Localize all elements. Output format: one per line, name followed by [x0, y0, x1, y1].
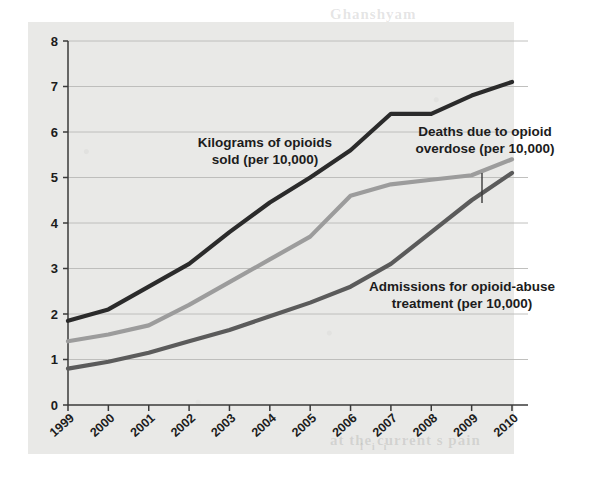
x-tick-label: 2003 [208, 411, 238, 440]
annotation-opioids-sold: sold (per 10,000) [212, 152, 319, 167]
y-tick-label: 1 [51, 352, 58, 367]
x-axis-ticks: 1999200020012002200320042005200620072008… [47, 405, 521, 440]
y-tick-label: 7 [51, 79, 58, 94]
series-line [68, 173, 512, 369]
x-tick-label: 2000 [87, 411, 117, 440]
x-tick-label: 2010 [491, 411, 521, 440]
x-tick-label: 2002 [168, 411, 198, 440]
annotation-overdose-deaths: Deaths due to opioid [418, 124, 552, 139]
x-tick-label: 2006 [330, 411, 360, 440]
x-tick-label: 2004 [249, 411, 279, 440]
x-tick-label: 2005 [289, 411, 319, 440]
y-tick-label: 2 [51, 307, 58, 322]
y-tick-label: 4 [51, 216, 59, 231]
y-tick-label: 6 [51, 125, 58, 140]
x-tick-label: 2001 [128, 411, 158, 440]
y-axis-ticks: 012345678 [51, 34, 68, 413]
x-tick-label: 2008 [410, 411, 440, 440]
x-tick-label: 2009 [451, 411, 481, 440]
y-tick-label: 5 [51, 170, 58, 185]
y-tick-label: 3 [51, 261, 58, 276]
x-tick-label: 1999 [47, 411, 77, 440]
annotation-overdose-deaths: overdose (per 10,000) [416, 141, 555, 156]
annotation-opioids-sold: Kilograms of opioids [198, 135, 332, 150]
annotation-treatment-admissions: Admissions for opioid-abuse [369, 279, 556, 294]
line-chart: 012345678 199920002001200220032004200520… [0, 0, 589, 477]
y-tick-label: 8 [51, 34, 58, 49]
gridlines [68, 41, 528, 360]
x-tick-label: 2007 [370, 411, 400, 440]
y-tick-label: 0 [51, 398, 58, 413]
screenshot-root: Ghanshyam at the current s pain i i i 01… [0, 0, 589, 477]
annotation-treatment-admissions: treatment (per 10,000) [392, 296, 532, 311]
